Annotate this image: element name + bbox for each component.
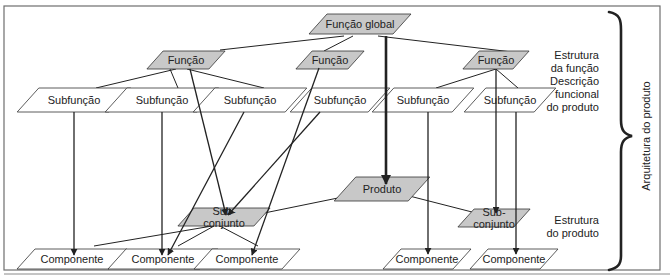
function-structure-line-3: Descrição [550, 75, 599, 87]
function-structure-line-2: da função [551, 62, 599, 74]
node-label: Componente [396, 253, 459, 265]
node-label: Subfunção [397, 94, 450, 106]
node-label: conjunto [473, 218, 515, 230]
product-architecture-diagram: Função globalFunçãoFunçãoFunçãoSubfunção… [0, 0, 670, 280]
function-structure-line-4: funcional [555, 88, 599, 100]
node-label: Subfunção [136, 94, 189, 106]
node-label: conjunto [203, 217, 245, 229]
node-label: Subfunção [48, 94, 101, 106]
node-label: Função [312, 54, 349, 66]
product-structure-line-1: Estrutura [554, 214, 600, 226]
function-structure-line-5: do produto [546, 101, 599, 113]
node-label: Subfunção [484, 94, 537, 106]
node-label: Componente [41, 253, 104, 265]
function-structure-label: Estrutura da função Descrição funcional … [546, 49, 599, 113]
product-structure-line-2: do produto [546, 227, 599, 239]
node-label: Função [168, 54, 205, 66]
node-label: Produto [363, 183, 402, 195]
node-global: Função global [309, 14, 411, 34]
function-structure-line-1: Estrutura [554, 49, 600, 61]
node-label: Subfunção [224, 94, 277, 106]
node-label: Função global [325, 18, 394, 30]
node-label: Componente [216, 253, 279, 265]
product-structure-label: Estrutura do produto [546, 214, 599, 239]
node-label: Função [478, 54, 515, 66]
node-label: Componente [483, 253, 546, 265]
node-label: Subfunção [314, 94, 367, 106]
node-label: Sub- [482, 206, 506, 218]
node-c3: Componente [194, 249, 300, 269]
architecture-label: Arquitetura do produto [640, 81, 652, 190]
node-label: Componente [132, 253, 195, 265]
